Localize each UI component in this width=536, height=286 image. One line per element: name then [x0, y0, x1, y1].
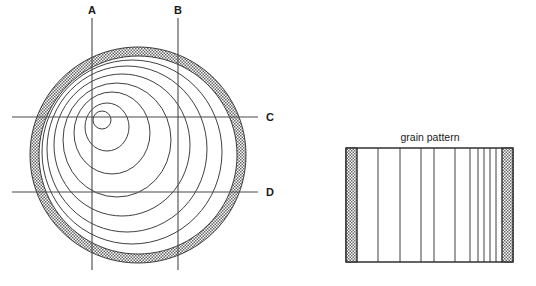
cut-label-a: A [88, 4, 96, 16]
grain-pattern-panel: grain pattern [346, 131, 513, 262]
technical-diagram: A B C D grain pattern [0, 0, 536, 286]
cut-label-c: C [266, 111, 274, 123]
cut-label-d: D [266, 186, 274, 198]
board-outline [346, 148, 513, 262]
board-bark-left [346, 148, 357, 262]
cut-label-b: B [174, 4, 182, 16]
diagram-root: A B C D grain pattern [0, 0, 536, 286]
board-bark-right [502, 148, 513, 262]
grain-pattern-title: grain pattern [401, 131, 460, 143]
